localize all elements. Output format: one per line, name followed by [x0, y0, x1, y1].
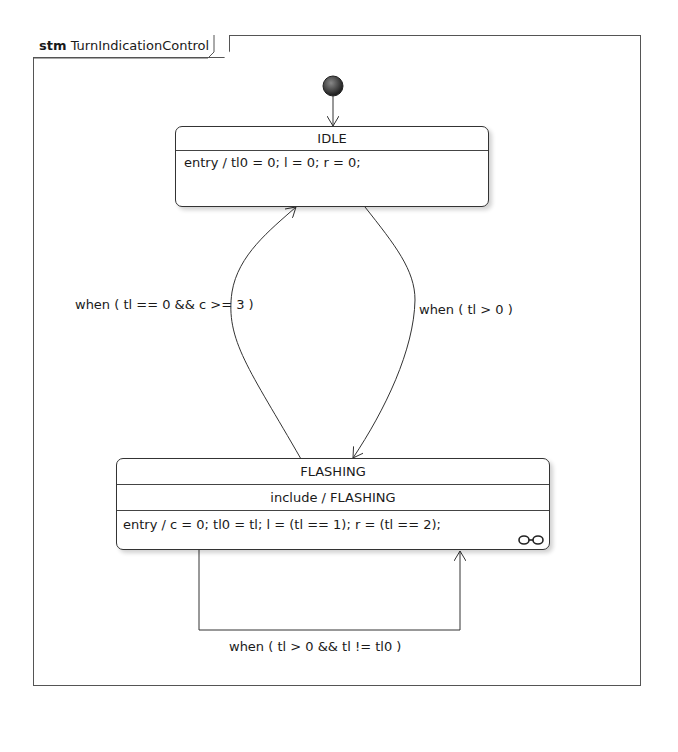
state-flashing-include: include / FLASHING	[117, 485, 549, 511]
guard-flashing-self: when ( tl > 0 && tl != tl0 )	[229, 639, 401, 654]
transition-idle-to-flashing[interactable]	[353, 207, 415, 458]
state-idle-entry: entry / tl0 = 0; l = 0; r = 0;	[176, 151, 488, 175]
guard-flashing-to-idle: when ( tl == 0 && c >= 3 )	[75, 297, 254, 312]
state-idle-name: IDLE	[176, 127, 488, 151]
state-flashing-entry: entry / c = 0; tl0 = tl; l = (tl == 1); …	[117, 511, 549, 539]
state-idle[interactable]: IDLE entry / tl0 = 0; l = 0; r = 0;	[175, 126, 489, 207]
guard-idle-to-flashing: when ( tl > 0 )	[419, 302, 513, 317]
transition-flashing-self[interactable]	[199, 549, 460, 630]
state-flashing-name: FLASHING	[117, 459, 549, 485]
transition-flashing-to-idle[interactable]	[231, 207, 301, 459]
submachine-link-icon	[518, 534, 544, 546]
initial-pseudostate[interactable]	[323, 76, 343, 96]
state-flashing[interactable]: FLASHING include / FLASHING entry / c = …	[116, 458, 550, 550]
